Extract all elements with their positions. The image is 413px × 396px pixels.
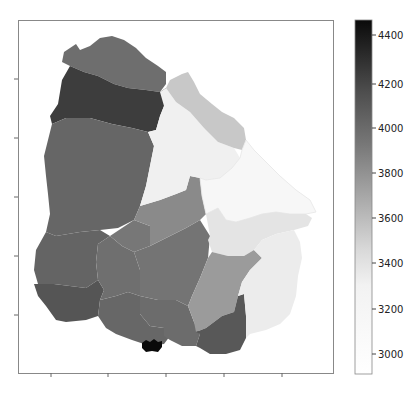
colorbar-tick-label: 3000	[378, 349, 403, 360]
choropleth-figure: 4400 4200 4000 3800 3600 3400 3200 3000	[0, 0, 413, 396]
colorbar-tick-label: 4400	[378, 30, 403, 41]
colorbar-tick-label: 3200	[378, 304, 403, 315]
y-axis-ticks	[14, 79, 18, 315]
colorbar-tick-label: 4000	[378, 123, 403, 134]
colorbar-tick-label: 3600	[378, 213, 403, 224]
colorbar-gradient	[355, 20, 372, 374]
colorbar-tick-label: 4200	[378, 79, 403, 90]
colorbar: 4400 4200 4000 3800 3600 3400 3200 3000	[355, 20, 403, 374]
colorbar-tick-label: 3400	[378, 258, 403, 269]
colorbar-tick-label: 3800	[378, 168, 403, 179]
